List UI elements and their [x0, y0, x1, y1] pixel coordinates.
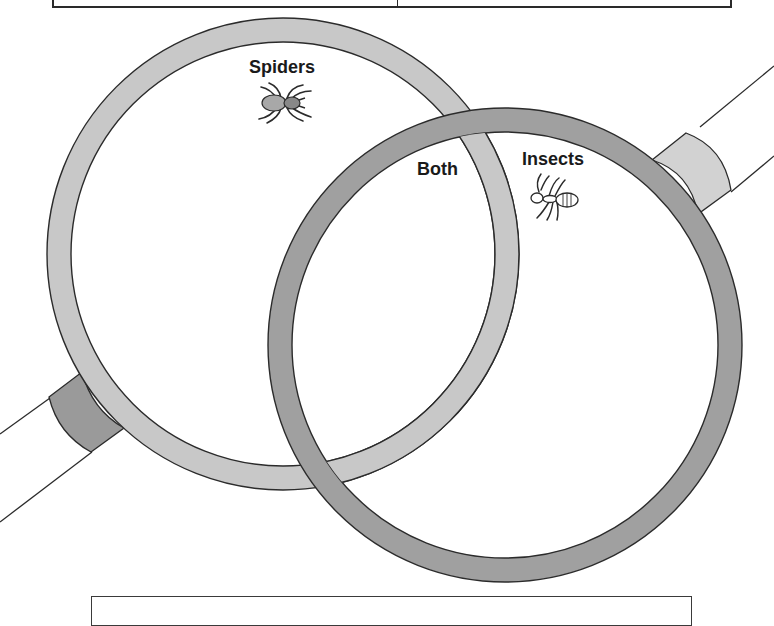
spider-icon — [259, 83, 311, 123]
intersection-label: Both — [417, 159, 458, 180]
answer-box-bottom[interactable] — [91, 596, 692, 626]
set-label-spiders: Spiders — [249, 57, 315, 78]
ant-icon — [531, 174, 578, 220]
set-label-insects: Insects — [522, 149, 584, 170]
